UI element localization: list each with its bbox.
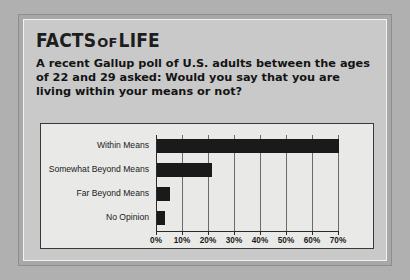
bar (157, 187, 170, 201)
x-axis-tick (286, 231, 287, 235)
bar-category-label: Somewhat Beyond Means (49, 162, 149, 177)
bar-chart: Within MeansSomewhat Beyond MeansFar Bey… (40, 123, 374, 249)
x-axis-tick (182, 231, 183, 235)
x-axis-tick-label: 40% (252, 236, 268, 245)
bar (157, 139, 339, 153)
facts-card-frame: FACTSOFLIFE A recent Gallup poll of U.S.… (18, 14, 392, 266)
x-axis-tick-label: 20% (200, 236, 216, 245)
bar (157, 211, 165, 225)
x-axis-tick-label: 70% (330, 236, 346, 245)
x-axis-line (156, 231, 338, 232)
bar-category-label: Within Means (97, 138, 149, 153)
bar (157, 163, 212, 177)
bar-row: Within Means (156, 135, 338, 159)
bar-category-label: Far Beyond Means (76, 186, 149, 201)
x-axis-tick-label: 50% (278, 236, 294, 245)
facts-card: FACTSOFLIFE A recent Gallup poll of U.S.… (23, 19, 387, 261)
bar-row: No Opinion (156, 207, 338, 231)
x-axis-tick (338, 231, 339, 235)
x-axis-tick-label: 10% (174, 236, 190, 245)
x-axis-tick-label: 60% (304, 236, 320, 245)
x-axis-tick-label: 0% (150, 236, 162, 245)
bar-rows: Within MeansSomewhat Beyond MeansFar Bey… (156, 135, 338, 231)
question-text: A recent Gallup poll of U.S. adults betw… (36, 57, 372, 100)
x-axis-tick (208, 231, 209, 235)
title-word-life: LIFE (119, 29, 160, 51)
chart-plot-area: Within MeansSomewhat Beyond MeansFar Bey… (156, 135, 338, 231)
x-axis-tick (156, 231, 157, 235)
title-word-facts: FACTS (36, 29, 96, 51)
x-axis-tick-label: 30% (226, 236, 242, 245)
bar-category-label: No Opinion (106, 210, 149, 225)
x-axis-tick (234, 231, 235, 235)
page-title: FACTSOFLIFE (36, 31, 375, 50)
title-word-of: OF (96, 35, 118, 50)
bar-row: Somewhat Beyond Means (156, 159, 338, 183)
bar-row: Far Beyond Means (156, 183, 338, 207)
x-axis-tick (260, 231, 261, 235)
x-axis-tick (312, 231, 313, 235)
page-root: FACTSOFLIFE A recent Gallup poll of U.S.… (0, 0, 410, 280)
